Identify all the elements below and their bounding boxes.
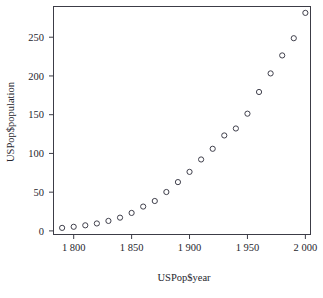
y-tick-label: 100: [28, 148, 44, 159]
y-tick-label: 250: [28, 32, 44, 43]
x-tick-label: 1 900: [178, 242, 202, 253]
y-axis-tick-labels: 050100150200250: [28, 32, 44, 237]
data-point: [222, 133, 227, 138]
data-point: [83, 223, 88, 228]
data-point: [60, 225, 65, 230]
x-tick-label: 1 800: [62, 242, 86, 253]
data-point: [187, 169, 192, 174]
x-tick-label: 1 850: [120, 242, 144, 253]
data-point: [210, 146, 215, 151]
x-axis-title: USPop$year: [157, 272, 211, 283]
data-point: [291, 36, 296, 41]
data-point: [117, 215, 122, 220]
data-point: [256, 89, 261, 94]
y-tick-label: 50: [34, 187, 45, 198]
data-point: [233, 126, 238, 131]
data-point: [71, 224, 76, 229]
x-tick-label: 2 000: [294, 242, 318, 253]
data-point-series: [60, 10, 308, 230]
data-point: [106, 218, 111, 223]
x-tick-label: 1 950: [236, 242, 260, 253]
data-point: [303, 10, 308, 15]
data-point: [164, 189, 169, 194]
scatter-plot-figure: 1 8001 8501 9001 9502 000 05010015020025…: [0, 0, 323, 298]
x-axis-tick-labels: 1 8001 8501 9001 9502 000: [62, 242, 317, 253]
data-point: [141, 204, 146, 209]
data-point: [199, 157, 204, 162]
data-point: [175, 179, 180, 184]
data-point: [94, 221, 99, 226]
y-tick-label: 0: [39, 226, 44, 237]
data-point: [152, 198, 157, 203]
plot-frame: [54, 7, 311, 235]
y-axis-title: USPop$population: [5, 81, 16, 162]
plot-canvas: 1 8001 8501 9001 9502 000 05010015020025…: [0, 0, 323, 298]
data-point: [245, 111, 250, 116]
y-tick-label: 200: [28, 71, 44, 82]
data-point: [280, 53, 285, 58]
data-point: [129, 210, 134, 215]
data-point: [268, 71, 273, 76]
y-tick-label: 150: [28, 109, 44, 120]
